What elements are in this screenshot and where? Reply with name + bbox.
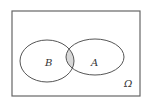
venn-diagram: B A Ω xyxy=(0,0,148,102)
universe-rectangle xyxy=(12,11,140,96)
set-b-label: B xyxy=(44,57,52,68)
set-a-label: A xyxy=(90,57,98,68)
universe-label: Ω xyxy=(123,78,132,89)
